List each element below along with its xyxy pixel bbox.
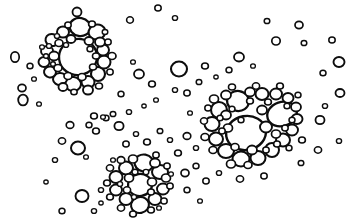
bubble xyxy=(154,98,159,102)
bubble xyxy=(295,92,301,98)
bubble xyxy=(37,102,42,106)
bubble xyxy=(51,62,56,66)
bubble xyxy=(169,172,174,176)
bubble xyxy=(247,146,257,155)
bubble xyxy=(336,139,341,144)
bubble xyxy=(117,157,125,164)
bubble xyxy=(226,67,232,73)
bubble xyxy=(322,104,327,109)
bubble xyxy=(85,37,94,45)
bubble xyxy=(316,116,325,124)
bubble xyxy=(55,40,63,47)
bubble xyxy=(148,189,155,195)
bubble xyxy=(64,73,72,80)
bubble xyxy=(130,211,137,217)
bubble xyxy=(198,199,203,203)
bubble xyxy=(71,89,77,95)
bubble xyxy=(107,194,114,200)
bubble xyxy=(183,133,191,140)
bubble xyxy=(184,90,190,96)
bubble xyxy=(98,188,103,193)
bubble xyxy=(93,128,100,134)
bubble xyxy=(171,62,187,77)
bubble xyxy=(149,81,156,87)
bubble xyxy=(144,139,151,145)
bubble xyxy=(229,84,236,90)
bubble xyxy=(40,45,45,49)
bubble xyxy=(126,110,131,115)
bubble xyxy=(59,83,68,91)
bubble xyxy=(196,79,202,84)
bubble xyxy=(108,53,116,60)
bubble xyxy=(234,53,244,62)
bubble xyxy=(282,125,288,131)
bubble xyxy=(95,38,105,47)
bubble xyxy=(105,39,111,45)
bubble xyxy=(66,122,74,129)
bubble xyxy=(127,17,134,23)
bubble xyxy=(320,70,326,76)
bubble xyxy=(184,187,190,193)
bubble xyxy=(27,63,33,69)
bubble xyxy=(148,207,155,213)
bubble xyxy=(65,22,71,28)
bubble xyxy=(49,52,59,61)
bubble xyxy=(289,117,295,123)
bubble xyxy=(157,128,163,133)
bubble xyxy=(157,206,162,210)
bubble xyxy=(132,169,138,175)
bubble xyxy=(46,44,51,49)
bubble xyxy=(181,169,189,176)
bubble xyxy=(214,75,218,79)
bubble xyxy=(229,106,235,112)
bubble xyxy=(114,122,123,130)
bubble xyxy=(125,174,134,182)
bubble xyxy=(123,187,130,193)
bubble xyxy=(99,201,103,205)
bubble xyxy=(111,158,116,162)
bubble xyxy=(227,160,236,168)
bubble xyxy=(76,190,89,202)
bubble xyxy=(83,86,93,95)
bubble xyxy=(44,180,48,184)
bubble xyxy=(131,195,136,200)
bubble xyxy=(93,53,100,59)
bubble xyxy=(32,77,37,81)
bubble xyxy=(18,84,26,91)
bubble xyxy=(73,8,82,17)
bubble xyxy=(210,95,219,103)
bubble xyxy=(167,183,173,189)
bubble xyxy=(236,176,243,182)
bubble xyxy=(256,88,269,100)
bubble xyxy=(291,103,301,112)
bubble xyxy=(261,173,267,179)
bubble xyxy=(89,21,96,27)
bubble xyxy=(301,40,307,45)
bubble xyxy=(238,117,244,123)
bubble xyxy=(155,5,161,11)
bubble xyxy=(78,74,86,81)
bubble xyxy=(201,118,208,124)
bubble xyxy=(265,99,272,105)
bubble xyxy=(143,169,149,174)
bubble xyxy=(120,193,133,205)
bubble xyxy=(260,122,272,133)
bubble xyxy=(274,141,281,147)
bubble xyxy=(104,180,111,186)
bubble xyxy=(203,178,209,184)
bubble xyxy=(219,128,225,134)
bubble xyxy=(216,171,221,176)
bubble xyxy=(44,54,49,58)
bubble xyxy=(270,89,282,100)
bubble xyxy=(263,147,269,153)
bubble xyxy=(142,104,146,108)
bubble xyxy=(86,122,92,128)
bubble xyxy=(58,138,65,144)
bubble xyxy=(133,132,138,137)
bubble xyxy=(129,155,138,163)
bubble xyxy=(209,147,217,154)
bubble xyxy=(52,158,57,163)
bubble xyxy=(117,182,122,187)
bubble xyxy=(231,144,239,151)
bubble xyxy=(107,69,113,75)
